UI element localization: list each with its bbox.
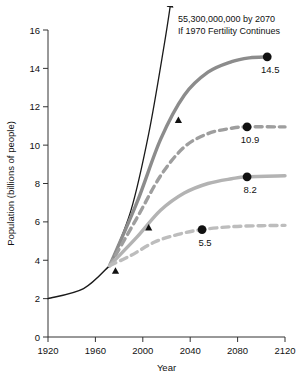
y-tick-label-12: 12: [29, 101, 40, 112]
population-projection-chart: 0246810121416192019602000204020802120Yea…: [0, 0, 302, 380]
x-tick-label-2040: 2040: [180, 345, 201, 356]
y-tick-label-4: 4: [35, 255, 40, 266]
y-tick-label-16: 16: [29, 25, 40, 36]
x-tick-label-2000: 2000: [132, 345, 153, 356]
annotation-line-1: 55,300,000,000 by 2070: [178, 14, 275, 24]
endpoint-marker: [243, 172, 252, 181]
series-historical: [48, 266, 110, 299]
y-axis-title: Population (billions of people): [5, 121, 16, 246]
endpoint-marker: [263, 52, 272, 61]
series-projection-10.9: [110, 127, 285, 266]
chart-canvas: 0246810121416192019602000204020802120Yea…: [0, 0, 302, 380]
x-tick-label-2080: 2080: [227, 345, 248, 356]
series-group: [48, 0, 285, 299]
value-label-8.2: 8.2: [243, 184, 256, 195]
series-projection-14.5: [110, 57, 268, 266]
x-tick-label-1920: 1920: [37, 345, 58, 356]
y-tick-label-2: 2: [35, 293, 40, 304]
actual-data-marker: [112, 267, 119, 274]
y-tick-label-14: 14: [29, 63, 40, 74]
y-tick-label-6: 6: [35, 216, 40, 227]
annotation-line-2: If 1970 Fertility Continues: [178, 26, 281, 36]
value-label-10.9: 10.9: [241, 134, 260, 145]
y-tick-label-8: 8: [35, 178, 40, 189]
endpoint-marker: [243, 122, 252, 131]
y-tick-label-0: 0: [35, 332, 40, 343]
y-tick-label-10: 10: [29, 140, 40, 151]
x-tick-label-1960: 1960: [85, 345, 106, 356]
series-projection-5.5: [110, 225, 285, 265]
x-tick-label-2120: 2120: [274, 345, 295, 356]
x-axis-title: Year: [157, 362, 176, 373]
unchecked-growth-annotation: 55,300,000,000 by 2070If 1970 Fertility …: [178, 14, 281, 36]
value-label-14.5: 14.5: [261, 64, 280, 75]
value-labels-group: 14.510.98.25.5: [198, 64, 279, 248]
arrowhead-1970-fertility-continues: [167, 0, 174, 8]
value-label-5.5: 5.5: [198, 237, 211, 248]
endpoint-marker: [198, 225, 207, 234]
actual-data-marker: [175, 117, 182, 124]
